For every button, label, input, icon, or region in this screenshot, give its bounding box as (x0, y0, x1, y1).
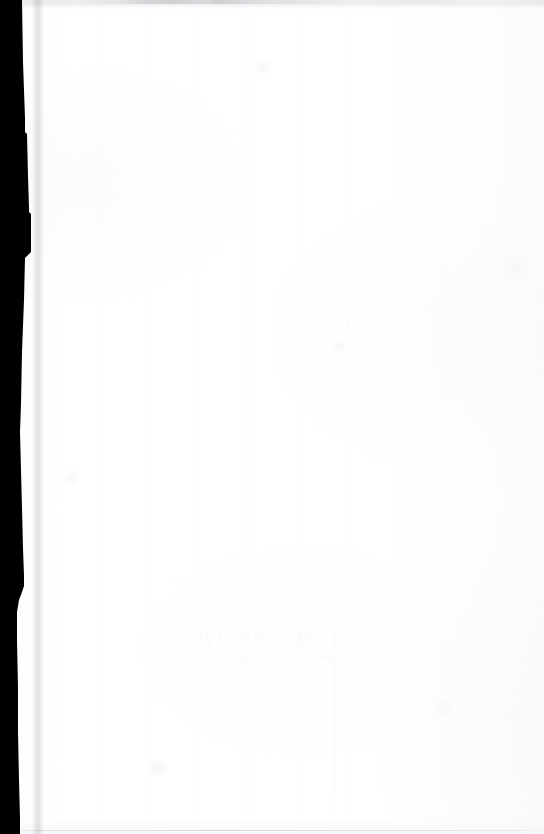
paper-sheet (0, 0, 544, 834)
top-edge-band-falloff (0, 4, 544, 9)
scanned-page (0, 0, 544, 834)
bottom-edge-rule (0, 830, 544, 831)
bottom-edge-wash (0, 818, 544, 834)
